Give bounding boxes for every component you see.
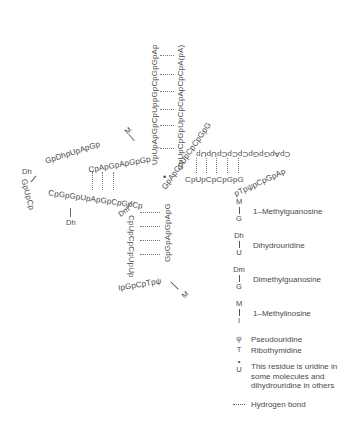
legend-label: 1–Methylguanosine (253, 207, 322, 216)
anticodon-loop: IpGpCpTpψ (118, 276, 162, 292)
d-loop-top: GpDhpUpApGp (44, 139, 101, 165)
hydrogen-bond (196, 158, 197, 173)
hydrogen-bond (140, 254, 160, 255)
modification-connector (170, 281, 178, 289)
psi-symbol: ψ (233, 335, 245, 343)
hydrogen-bond (160, 55, 174, 56)
legend-item-variable-residue: •U This residue is uridine in some molec… (233, 358, 341, 392)
modification-connector (31, 176, 37, 183)
dh-modification-bottom: Dh (66, 218, 76, 227)
variable-uridine-symbol: •U (233, 358, 245, 374)
dh-modification-left: Dh (22, 167, 32, 176)
acceptor-stem-5prime: UpUpApGpCpUp (150, 102, 159, 165)
hydrogen-bond (160, 148, 174, 149)
thymidine-symbol: T (233, 346, 245, 354)
legend-item-dimethylguanosine: DmG Dimethylguanosine (233, 266, 341, 292)
legend-label: Hydrogen bond (251, 400, 306, 409)
hydrogen-bond (216, 158, 217, 173)
legend-label: Pseudouridine (251, 335, 302, 344)
dihydrouridine-symbol: DhU (233, 232, 245, 257)
legend-label: 1–Methylinosine (253, 309, 311, 318)
hydrogen-bond (140, 240, 160, 241)
legend-item-dihydrouridine: DhU Dihydrouridine (233, 232, 341, 258)
hydrogen-bond (160, 74, 174, 75)
hydrogen-bond (102, 172, 103, 190)
hydrogen-bond (160, 109, 174, 110)
legend-item-methylinosine: MI 1–Methylinosine (233, 300, 341, 326)
acceptor-stem-5prime-end: pGpCpGpGpAp (150, 44, 159, 102)
legend-label: Dimethylguanosine (253, 275, 321, 284)
t-arm-top-strand: CpApGpGpCpCpCpUpUp (196, 150, 290, 159)
modification-connector (128, 134, 135, 142)
hydrogen-bond (206, 158, 207, 173)
legend: MG 1–Methylguanosine DhU Dihydrouridine … (233, 198, 341, 410)
m-modification-bottom: M (180, 289, 191, 300)
t-arm-bottom-strand: CpUpCpCpGpG (185, 175, 244, 184)
legend-item-pseudouridine: ψ Pseudouridine (233, 334, 341, 345)
hydrogen-bond (113, 172, 114, 190)
hydrogen-bond-symbol (233, 404, 245, 405)
legend-item-hydrogen-bond: Hydrogen bond (233, 398, 341, 410)
legend-label: Dihydrouridine (253, 241, 305, 250)
legend-item-ribothymidine: T Ribothymidine (233, 345, 341, 356)
hydrogen-bond (160, 125, 174, 126)
anticodon-arm-right-strand: GpGpApGpApG (163, 203, 172, 262)
hydrogen-bond (140, 226, 160, 227)
hydrogen-bond (160, 91, 174, 92)
dimethylguanosine-symbol: DmG (233, 266, 245, 291)
d-loop-left: GpUpCp (19, 178, 36, 211)
legend-label: This residue is uridine in some molecule… (251, 362, 342, 391)
methylinosine-symbol: MI (233, 300, 245, 325)
hydrogen-bond (227, 158, 228, 173)
hydrogen-bond (140, 212, 160, 213)
methylguanosine-symbol: MG (233, 198, 245, 223)
modification-connector (70, 208, 71, 217)
legend-label: Ribothymidine (251, 346, 302, 355)
hydrogen-bond (238, 158, 239, 173)
d-arm-top-strand: CpApGpApGpGp (88, 155, 152, 175)
anticodon-arm-left-strand: CpUpCpCpUpUp (127, 215, 136, 278)
d-arm-bottom-strand: CpGpGpUpApGpCpGpCp (48, 188, 144, 210)
hydrogen-bond (92, 172, 93, 190)
legend-item-methylguanosine: MG 1–Methylguanosine (233, 198, 341, 224)
